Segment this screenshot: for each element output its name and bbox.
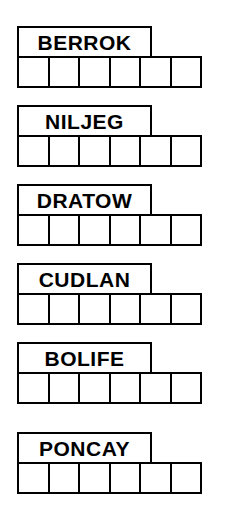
word-label: NILJEG bbox=[45, 110, 124, 131]
puzzle-sheet: BERROKNILJEGDRATOWCUDLANBOLIFEPONCAY bbox=[0, 0, 231, 508]
word-row: DRATOW bbox=[17, 184, 213, 246]
letter-cell[interactable] bbox=[78, 372, 111, 404]
letter-cell-strip bbox=[17, 462, 213, 494]
word-label-box: NILJEG bbox=[17, 105, 152, 137]
word-row: BERROK bbox=[17, 26, 213, 88]
word-label-box: DRATOW bbox=[17, 184, 152, 216]
letter-cell-strip bbox=[17, 372, 213, 404]
letter-cell[interactable] bbox=[139, 293, 172, 325]
letter-cell[interactable] bbox=[170, 214, 203, 246]
letter-cell[interactable] bbox=[17, 462, 50, 494]
letter-cell[interactable] bbox=[17, 135, 50, 167]
letter-cell[interactable] bbox=[170, 293, 203, 325]
word-label: DRATOW bbox=[37, 189, 133, 210]
word-label: CUDLAN bbox=[39, 268, 131, 289]
word-label: BERROK bbox=[37, 31, 131, 52]
word-label-box: PONCAY bbox=[17, 432, 152, 464]
letter-cell[interactable] bbox=[17, 293, 50, 325]
letter-cell-strip bbox=[17, 135, 213, 167]
letter-cell[interactable] bbox=[109, 372, 142, 404]
letter-cell[interactable] bbox=[109, 462, 142, 494]
word-label-box: BOLIFE bbox=[17, 342, 152, 374]
letter-cell[interactable] bbox=[170, 462, 203, 494]
letter-cell-strip bbox=[17, 56, 213, 88]
letter-cell[interactable] bbox=[78, 293, 111, 325]
letter-cell[interactable] bbox=[109, 135, 142, 167]
letter-cell[interactable] bbox=[170, 56, 203, 88]
letter-cell[interactable] bbox=[17, 214, 50, 246]
letter-cell[interactable] bbox=[78, 135, 111, 167]
letter-cell[interactable] bbox=[48, 293, 81, 325]
letter-cell[interactable] bbox=[78, 56, 111, 88]
letter-cell[interactable] bbox=[109, 214, 142, 246]
letter-cell-strip bbox=[17, 214, 213, 246]
word-label: PONCAY bbox=[39, 437, 130, 458]
letter-cell-strip bbox=[17, 293, 213, 325]
letter-cell[interactable] bbox=[139, 372, 172, 404]
letter-cell[interactable] bbox=[139, 135, 172, 167]
letter-cell[interactable] bbox=[48, 462, 81, 494]
letter-cell[interactable] bbox=[17, 56, 50, 88]
letter-cell[interactable] bbox=[48, 135, 81, 167]
letter-cell[interactable] bbox=[78, 214, 111, 246]
letter-cell[interactable] bbox=[17, 372, 50, 404]
word-row: NILJEG bbox=[17, 105, 213, 167]
word-label-box: CUDLAN bbox=[17, 263, 152, 295]
letter-cell[interactable] bbox=[139, 462, 172, 494]
word-row: PONCAY bbox=[17, 432, 213, 494]
letter-cell[interactable] bbox=[139, 56, 172, 88]
word-row: CUDLAN bbox=[17, 263, 213, 325]
letter-cell[interactable] bbox=[48, 56, 81, 88]
letter-cell[interactable] bbox=[48, 372, 81, 404]
word-row: BOLIFE bbox=[17, 342, 213, 404]
letter-cell[interactable] bbox=[170, 135, 203, 167]
letter-cell[interactable] bbox=[78, 462, 111, 494]
letter-cell[interactable] bbox=[170, 372, 203, 404]
letter-cell[interactable] bbox=[109, 293, 142, 325]
letter-cell[interactable] bbox=[139, 214, 172, 246]
word-label: BOLIFE bbox=[45, 347, 125, 368]
word-label-box: BERROK bbox=[17, 26, 152, 58]
letter-cell[interactable] bbox=[109, 56, 142, 88]
letter-cell[interactable] bbox=[48, 214, 81, 246]
